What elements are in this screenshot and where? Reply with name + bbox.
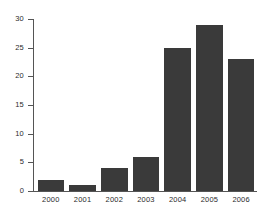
bar[interactable]: [164, 48, 191, 191]
x-axis-tick-label: 2004: [162, 196, 194, 204]
bars-group: [0, 0, 264, 218]
x-axis-tick-label: 2001: [67, 196, 99, 204]
x-axis-tick-label: 2005: [194, 196, 226, 204]
x-axis-tick-label: 2003: [130, 196, 162, 204]
bar[interactable]: [38, 180, 65, 191]
bar[interactable]: [101, 168, 128, 191]
bar[interactable]: [133, 157, 160, 191]
bar[interactable]: [69, 185, 96, 191]
bar[interactable]: [228, 59, 255, 191]
bar-chart: 051015202530 200020012002200320042005200…: [0, 0, 264, 218]
x-axis-tick-label: 2002: [98, 196, 130, 204]
bar[interactable]: [196, 25, 223, 191]
x-axis-tick-label: 2006: [225, 196, 257, 204]
x-axis-tick-label: 2000: [35, 196, 67, 204]
